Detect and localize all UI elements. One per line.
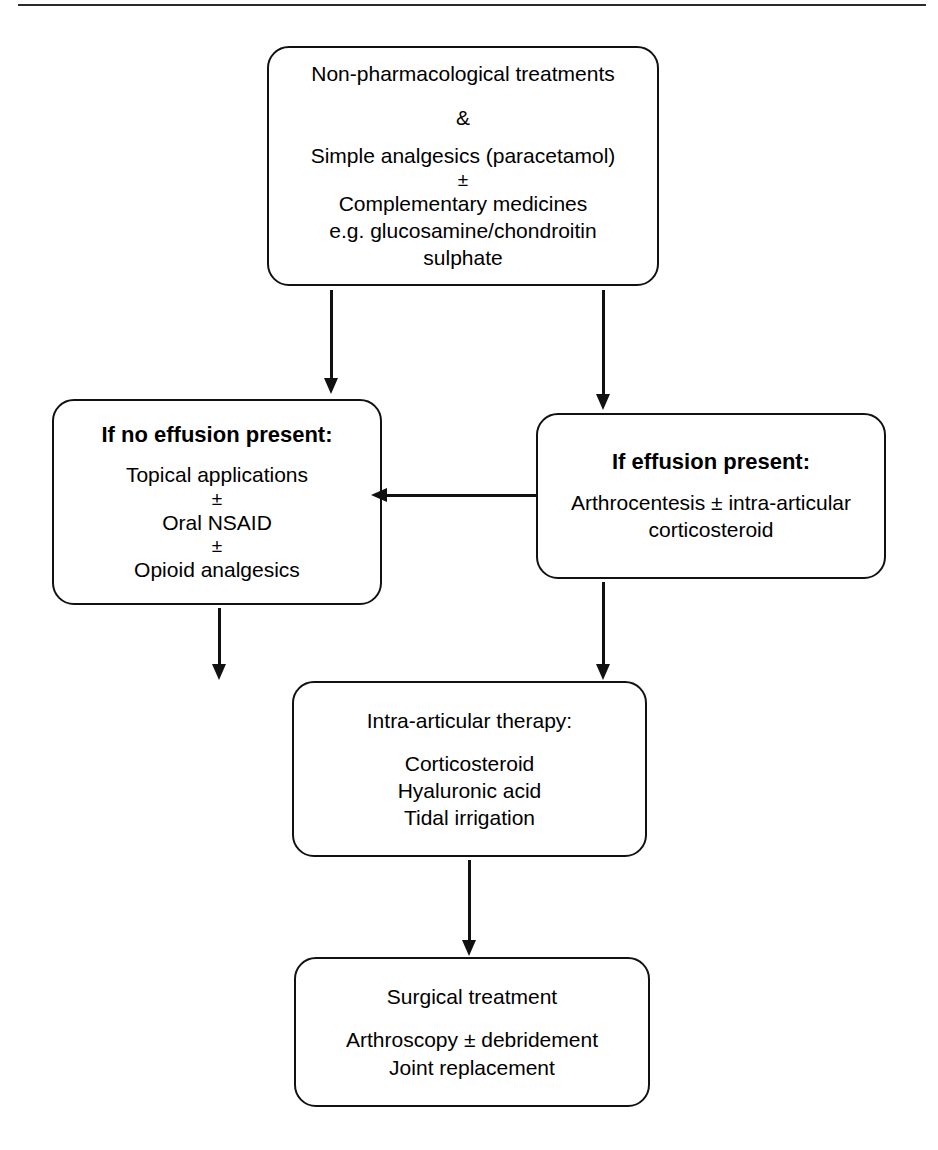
node-initial-line-6: e.g. glucosamine/chondroitin <box>329 217 596 244</box>
arrow-shaft <box>602 582 605 666</box>
node-effusion-heading: If effusion present: <box>612 448 810 477</box>
node-initial-management: Non-pharmacological treatments & Simple … <box>267 46 659 286</box>
node-surgical-line-2: Joint replacement <box>389 1054 555 1081</box>
node-surgical-treatment: Surgical treatment Arthroscopy ± debride… <box>294 957 650 1107</box>
arrow-shaft <box>386 494 536 497</box>
arrow-head-down-icon <box>596 394 610 410</box>
node-no-effusion-line-1: Topical applications <box>126 461 308 488</box>
node-initial-line-2: & <box>456 104 470 131</box>
arrow-shaft <box>218 608 221 666</box>
node-intra-line-3: Tidal irrigation <box>404 804 535 831</box>
node-no-effusion: If no effusion present: Topical applicat… <box>52 399 382 605</box>
node-no-effusion-line-3: Oral NSAID <box>162 509 272 536</box>
node-no-effusion-line-5: Opioid analgesics <box>134 556 300 583</box>
node-effusion-line-2: corticosteroid <box>649 516 774 543</box>
arrow-shaft <box>330 290 333 380</box>
node-initial-line-3: Simple analgesics (paracetamol) <box>311 142 616 169</box>
node-surgical-heading: Surgical treatment <box>387 983 557 1010</box>
arrow-head-left-icon <box>371 488 387 502</box>
arrow-shaft <box>468 860 471 942</box>
node-initial-line-7: sulphate <box>423 244 502 271</box>
node-intra-articular-therapy: Intra-articular therapy: Corticosteroid … <box>292 681 647 857</box>
node-initial-line-5: Complementary medicines <box>339 190 588 217</box>
node-effusion-line-1: Arthrocentesis ± intra-articular <box>571 489 851 516</box>
node-intra-line-1: Corticosteroid <box>405 750 535 777</box>
node-intra-line-2: Hyaluronic acid <box>398 777 542 804</box>
arrow-shaft <box>602 290 605 396</box>
node-effusion: If effusion present: Arthrocentesis ± in… <box>536 413 886 579</box>
node-no-effusion-heading: If no effusion present: <box>102 421 333 450</box>
top-divider-rule <box>18 4 926 6</box>
node-intra-heading: Intra-articular therapy: <box>367 707 572 734</box>
arrow-head-down-icon <box>212 664 226 680</box>
arrow-head-down-icon <box>596 664 610 680</box>
arrow-head-down-icon <box>324 378 338 394</box>
arrow-head-down-icon <box>462 940 476 956</box>
node-initial-line-1: Non-pharmacological treatments <box>311 60 614 87</box>
node-initial-line-4: ± <box>458 170 468 190</box>
flowchart-canvas: Non-pharmacological treatments & Simple … <box>0 0 938 1150</box>
node-surgical-line-1: Arthroscopy ± debridement <box>346 1026 598 1053</box>
node-no-effusion-line-4: ± <box>212 536 222 556</box>
node-no-effusion-line-2: ± <box>212 489 222 509</box>
